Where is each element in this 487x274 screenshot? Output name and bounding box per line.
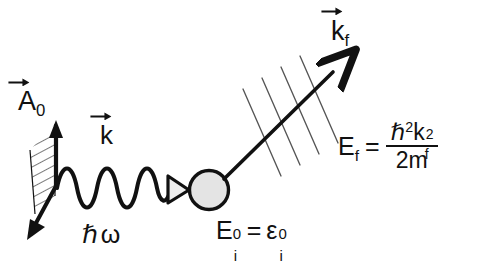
target-atom-sphere: [190, 171, 229, 210]
numerator-k: k: [413, 119, 425, 145]
vector-potential-subscript: 0: [36, 101, 45, 120]
final-wavevector-symbol: k: [331, 16, 345, 46]
final-wavevector-subscript: f: [345, 31, 350, 50]
final-energy-denominator: 2m: [386, 145, 438, 172]
vector-arrow-icon: [7, 77, 29, 86]
initial-energy-lhs-symbol: E: [216, 216, 233, 244]
initial-energy-lhs-superscript: 0: [233, 226, 241, 241]
vector-potential-symbol: A: [18, 86, 36, 116]
initial-energy-rhs-superscript: 0: [278, 226, 286, 241]
vector-arrow-icon: [89, 111, 111, 120]
incident-wavevector-symbol: k: [100, 120, 113, 150]
final-energy-equals: =: [365, 132, 380, 160]
label-initial-energy-equation: E 0 i =ε 0 i: [216, 218, 286, 243]
final-energy-lhs-symbol: E: [338, 132, 355, 160]
label-photon-energy: ℏω: [82, 222, 123, 247]
final-energy-fraction: ℏ2k f 2 2m: [386, 120, 438, 172]
final-energy-lhs-subscript: f: [355, 147, 359, 164]
incident-photon-wave: [57, 169, 189, 208]
numerator-k-subscript: f: [425, 147, 429, 161]
numerator-hbar-exponent: 2: [405, 119, 413, 135]
label-vector-potential: A0: [18, 88, 45, 120]
numerator-k-exponent: 2: [426, 127, 434, 141]
initial-energy-equals: =: [247, 216, 262, 244]
numerator-hbar: ℏ: [391, 119, 406, 145]
initial-energy-rhs-subscript: i: [279, 248, 282, 263]
vector-arrow-icon: [320, 6, 342, 15]
initial-energy-rhs-symbol: ε: [266, 216, 277, 244]
label-final-wavevector: kf: [331, 18, 349, 50]
physics-diagram: A0 k ℏω kf E 0 i =ε 0 i: [0, 0, 487, 274]
label-final-energy-equation: Ef= ℏ2k f 2 2m: [338, 120, 438, 172]
initial-energy-lhs-subscript: i: [234, 248, 237, 263]
outgoing-electron-arrow: [224, 72, 333, 179]
label-incident-wavevector: k: [100, 122, 113, 148]
final-energy-numerator: ℏ2k f 2: [386, 120, 438, 145]
